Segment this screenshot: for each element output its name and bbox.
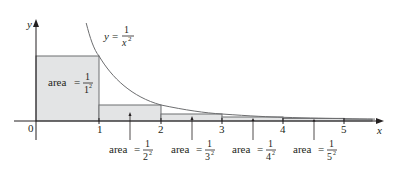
svg-text:area: area — [171, 143, 189, 155]
x-tick-label-2: 2 — [158, 123, 164, 135]
svg-text:1: 1 — [145, 138, 150, 149]
svg-text:1: 1 — [85, 71, 90, 82]
svg-text:=: = — [112, 30, 118, 42]
svg-text:2: 2 — [128, 35, 132, 43]
area-label-2: area = 1 2 2 — [109, 138, 153, 162]
svg-text:2: 2 — [143, 151, 148, 162]
area-label-3: area = 1 3 2 — [171, 138, 215, 162]
svg-text:2: 2 — [211, 150, 214, 156]
x-tick-label-5: 5 — [341, 123, 347, 135]
y-axis-label: y — [26, 18, 32, 30]
x-tick-label-4: 4 — [280, 123, 286, 135]
area-label-4: area = 1 4 2 — [232, 138, 276, 162]
area-diagram: y x 0 1 2 3 4 5 y = 1 x 2 area = 1 1 2 a… — [0, 0, 398, 173]
svg-text:2: 2 — [333, 150, 336, 156]
svg-text:5: 5 — [327, 151, 332, 162]
svg-text:1: 1 — [329, 138, 334, 149]
svg-text:=: = — [318, 143, 324, 155]
svg-text:1: 1 — [124, 24, 129, 35]
x-tick-label-1: 1 — [97, 123, 103, 135]
svg-text:=: = — [134, 143, 140, 155]
svg-text:1: 1 — [207, 138, 212, 149]
x-tick-label-3: 3 — [219, 123, 225, 135]
svg-text:3: 3 — [205, 151, 210, 162]
svg-text:=: = — [257, 143, 263, 155]
y-axis-arrow-icon — [33, 19, 39, 27]
svg-text:area: area — [232, 143, 250, 155]
svg-text:area: area — [48, 76, 66, 88]
curve-label: y = 1 x 2 — [103, 24, 134, 48]
svg-text:2: 2 — [149, 150, 152, 156]
svg-text:=: = — [74, 76, 80, 88]
svg-text:y: y — [103, 30, 109, 42]
svg-text:2: 2 — [272, 150, 275, 156]
origin-label: 0 — [28, 122, 34, 134]
svg-text:area: area — [293, 143, 311, 155]
svg-text:1: 1 — [268, 138, 273, 149]
svg-text:x: x — [121, 37, 127, 48]
svg-text:=: = — [196, 143, 202, 155]
svg-text:area: area — [109, 143, 127, 155]
x-axis-label: x — [376, 124, 382, 136]
svg-text:4: 4 — [266, 151, 271, 162]
svg-text:2: 2 — [89, 83, 92, 89]
area-label-5: area = 1 5 2 — [293, 138, 337, 162]
